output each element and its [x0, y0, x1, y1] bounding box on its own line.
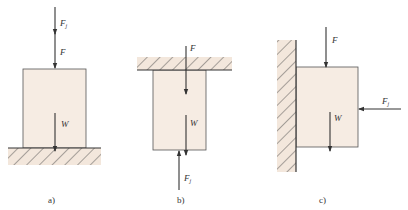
svg-text:Fj: Fj [183, 173, 192, 184]
f-label-a: F [59, 47, 66, 57]
figure-a: Fj F W a) [8, 7, 101, 205]
svg-text:Fj: Fj [381, 96, 390, 107]
caption-b: b) [177, 195, 185, 205]
block-c [296, 67, 358, 147]
force-diagram-canvas: Fj F W a) F W Fj b) F W [0, 0, 408, 210]
svg-text:Fj: Fj [59, 18, 68, 29]
caption-c: c) [319, 195, 326, 205]
figure-c: F W Fj c) [277, 27, 401, 205]
f-label-b: F [189, 43, 196, 53]
figure-b: F W Fj b) [137, 43, 232, 205]
f-label-c: F [331, 35, 338, 45]
block-b [153, 70, 206, 150]
caption-a: a) [48, 195, 55, 205]
